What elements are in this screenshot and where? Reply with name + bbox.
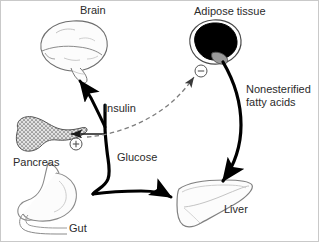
brain-icon: [41, 21, 107, 83]
glucose-pathway: [80, 81, 171, 197]
pathway-diagram: Brain Adipose tissue Pancreas Gut Liver …: [0, 0, 319, 242]
nefa-label-line1: Nonesterified: [246, 83, 311, 95]
gut-stomach-icon: [18, 163, 77, 234]
liver-label: Liver: [224, 203, 248, 215]
minus-sign-circle: [195, 65, 207, 77]
plus-sign-circle: [70, 138, 82, 150]
nefa-pathway: [223, 62, 241, 181]
brain-label: Brain: [80, 4, 106, 16]
pancreas-label: Pancreas: [13, 156, 59, 168]
insulin-label: Insulin: [104, 102, 136, 114]
diagram-canvas: [1, 1, 319, 242]
glucose-label: Glucose: [117, 151, 157, 163]
adipose-tissue-label: Adipose tissue: [194, 5, 266, 17]
adipose-tissue-icon: [190, 20, 241, 64]
gut-label: Gut: [69, 222, 87, 234]
nefa-label-line2: fatty acids: [246, 96, 296, 108]
